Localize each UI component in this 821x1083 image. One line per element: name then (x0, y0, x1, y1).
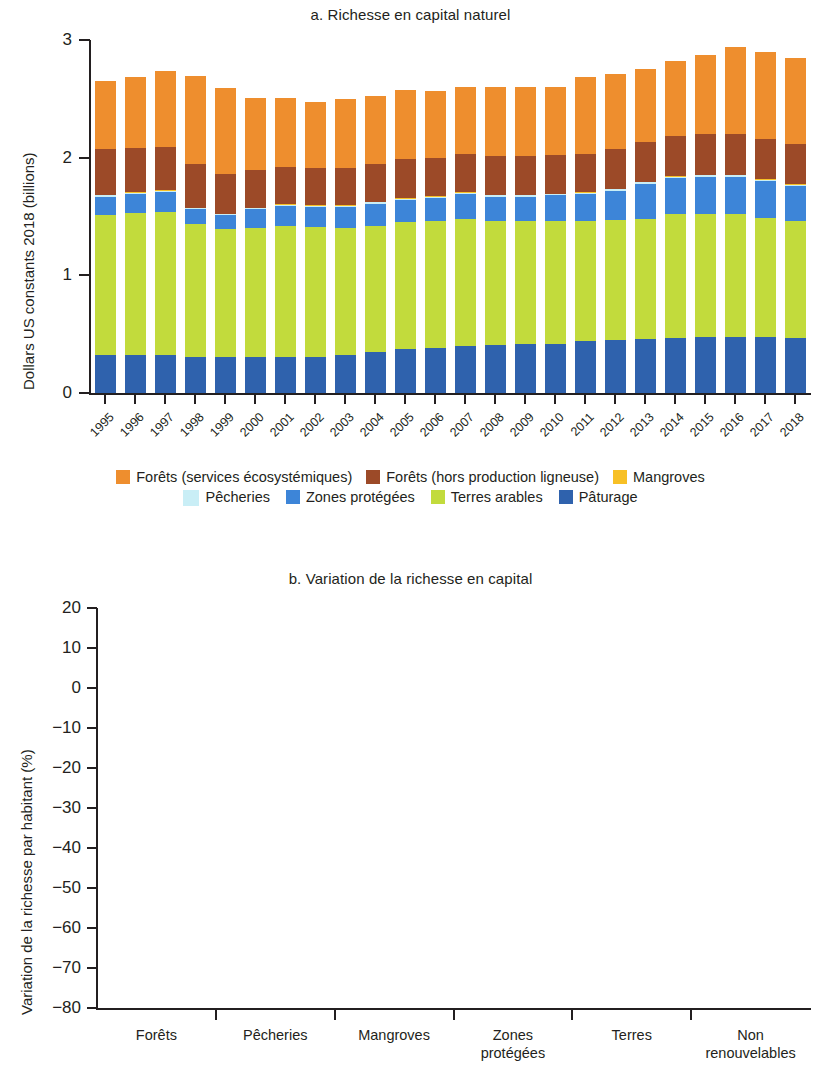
panel-a-y-tick-label: 0 (40, 384, 72, 401)
panel-a-title: a. Richesse en capital naturel (0, 6, 821, 23)
panel-a-stacked-bar (575, 77, 596, 393)
panel-a-bar-segment (785, 58, 806, 144)
panel-a-bar-segment (635, 184, 656, 219)
panel-a-y-tick (79, 39, 90, 41)
panel-b-y-tick-label: 10 (30, 639, 81, 656)
panel-a-legend-item[interactable]: Mangroves (613, 470, 705, 485)
panel-a-bar-segment (395, 200, 416, 222)
panel-a-x-tick (134, 395, 136, 404)
panel-b-y-tick (87, 727, 97, 729)
panel-a-y-axis-label: Dollars US constants 2018 (billions) (20, 152, 37, 390)
panel-a-stacked-bar (245, 98, 266, 393)
panel-a-stacked-bar (215, 88, 236, 393)
panel-a-bar-segment (455, 194, 476, 219)
panel-a-bar-segment (305, 207, 326, 227)
panel-a-bar-segment (785, 338, 806, 393)
panel-a-bar-segment (125, 148, 146, 193)
panel-a-bar-segment (725, 337, 746, 393)
panel-a-bar-segment (185, 76, 206, 164)
panel-a-y-tick-label: 2 (40, 149, 72, 166)
panel-a-bar-segment (155, 355, 176, 393)
panel-b-y-tick-label: −80 (30, 999, 81, 1016)
panel-a-stacked-bar (725, 46, 746, 393)
panel-a-bar-segment (485, 197, 506, 222)
panel-a-x-tick (344, 395, 346, 404)
panel-a-stacked-bar (785, 58, 806, 393)
panel-a-bar-segment (785, 221, 806, 337)
panel-a-bar-segment (605, 149, 626, 189)
panel-a-bar-segment (665, 338, 686, 393)
panel-a-legend-label: Pâturage (579, 490, 638, 505)
panel-b-y-tick (87, 647, 97, 649)
panel-a-bar-segment (455, 154, 476, 193)
panel-a-bar-segment (425, 348, 446, 393)
panel-a-x-tick (704, 395, 706, 404)
panel-a-bar-segment (275, 167, 296, 205)
panel-a-legend-item[interactable]: Pâturage (559, 490, 638, 505)
legend-swatch-icon (183, 490, 199, 506)
panel-a-x-tick (734, 395, 736, 404)
panel-a-bar-segment (275, 98, 296, 166)
panel-a-bar-segment (665, 178, 686, 214)
panel-a-bar-segment (635, 339, 656, 393)
panel-b-y-tick (87, 967, 97, 969)
panel-a-stacked-bar (335, 99, 356, 393)
panel-a-legend-item[interactable]: Terres arables (431, 490, 543, 505)
panel-a-bar-segment (365, 164, 386, 202)
legend-swatch-icon (366, 470, 380, 484)
panel-a-plot-area (90, 40, 810, 393)
panel-a-stacked-bar (695, 55, 716, 393)
panel-a-bar-segment (335, 99, 356, 167)
panel-b-category-label: Nonrenouvelables (691, 1026, 810, 1062)
panel-a-bar-segment (755, 52, 776, 139)
panel-a-bar-segment (245, 228, 266, 356)
panel-a-bar-segment (215, 215, 236, 229)
panel-a-bar-segment (365, 352, 386, 393)
panel-a-x-tick (314, 395, 316, 404)
panel-b-y-tick-label: −50 (30, 879, 81, 896)
panel-a-bar-segment (155, 71, 176, 146)
panel-a-legend-label: Zones protégées (306, 490, 415, 505)
panel-a-bar-segment (605, 340, 626, 393)
panel-a-bar-segment (605, 74, 626, 149)
panel-a-bar-segment (395, 159, 416, 198)
panel-b-y-tick-label: −10 (30, 719, 81, 736)
panel-a-legend-item[interactable]: Forêts (hors production ligneuse) (366, 470, 599, 485)
panel-a-bar-segment (305, 168, 326, 206)
panel-a-bar-segment (545, 87, 566, 155)
panel-a-bar-segment (245, 357, 266, 393)
panel-a-bar-segment (755, 218, 776, 337)
panel-a-bar-segment (185, 209, 206, 223)
panel-a-x-tick (494, 395, 496, 404)
panel-a-legend-item[interactable]: Pêcheries (183, 490, 269, 506)
panel-a-bar-segment (665, 61, 686, 136)
panel-a-bar-segment (455, 87, 476, 154)
panel-b-category-separator (690, 1010, 692, 1020)
panel-b-y-tick (87, 767, 97, 769)
panel-a-bar-segment (575, 341, 596, 393)
panel-a-x-tick (674, 395, 676, 404)
panel-a-bar-segment (185, 357, 206, 393)
legend-swatch-icon (431, 490, 445, 504)
panel-a-bar-segment (185, 224, 206, 357)
panel-a-legend-item[interactable]: Forêts (services écosystémiques) (116, 470, 352, 485)
panel-b-y-axis (96, 608, 98, 1010)
panel-a-legend: Forêts (services écosystémiques)Forêts (… (0, 470, 821, 506)
panel-b-category-label: Forêts (97, 1026, 216, 1044)
panel-a-bar-segment (515, 344, 536, 393)
panel-a-bar-segment (365, 96, 386, 164)
panel-a-bar-segment (155, 212, 176, 356)
panel-a-bar-segment (635, 69, 656, 142)
panel-a-bar-segment (455, 346, 476, 393)
panel-a-bar-segment (515, 197, 536, 222)
panel-a-bar-segment (95, 355, 116, 393)
panel-a-stacked-bar (275, 98, 296, 393)
panel-a-bar-segment (425, 221, 446, 348)
panel-a-legend-label: Forêts (services écosystémiques) (136, 470, 352, 485)
panel-a-bar-segment (785, 186, 806, 221)
panel-a-legend-item[interactable]: Zones protégées (286, 490, 415, 505)
panel-a-stacked-bar (605, 74, 626, 393)
panel-a-natural-capital-wealth: a. Richesse en capital naturel Dollars U… (0, 0, 821, 545)
panel-b-y-tick-label: −40 (30, 839, 81, 856)
panel-b-y-tick (87, 887, 97, 889)
